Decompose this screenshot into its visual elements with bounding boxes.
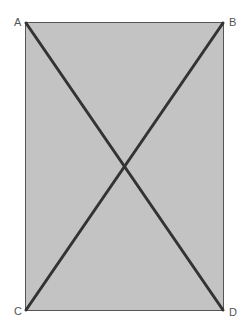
vertex-label-d: D (229, 306, 237, 318)
vertex-label-a: A (14, 16, 22, 28)
vertex-label-b: B (229, 16, 236, 28)
rectangle-diagram: A B C D (0, 0, 247, 330)
vertex-label-c: C (14, 305, 22, 317)
